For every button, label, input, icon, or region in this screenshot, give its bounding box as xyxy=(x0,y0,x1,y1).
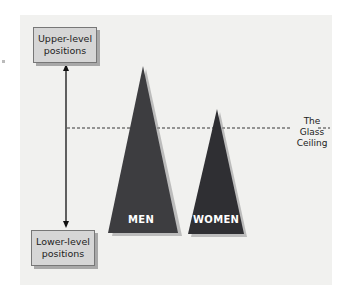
lower-line1: Lower-level xyxy=(36,236,90,248)
upper-line2: positions xyxy=(44,45,87,57)
ceiling-line2: Glass xyxy=(292,127,332,138)
glass-ceiling-label: The Glass Ceiling xyxy=(292,116,332,149)
men-triangle xyxy=(108,66,178,233)
upper-level-box: Upper-level positions xyxy=(33,27,97,63)
lower-line2: positions xyxy=(42,248,85,260)
men-label: MEN xyxy=(128,214,154,225)
lower-level-box: Lower-level positions xyxy=(31,230,95,266)
ceiling-line3: Ceiling xyxy=(292,138,332,149)
women-label: WOMEN xyxy=(193,214,239,225)
hierarchy-arrow xyxy=(63,64,69,228)
ceiling-line1: The xyxy=(292,116,332,127)
upper-line1: Upper-level xyxy=(38,33,92,45)
